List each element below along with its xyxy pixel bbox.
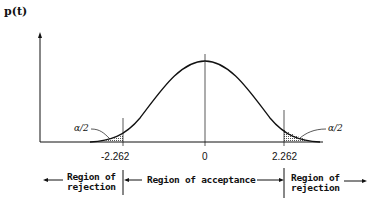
acceptance-label: Region of acceptance (147, 175, 255, 185)
y-axis-label: p(t) (4, 5, 27, 18)
acceptance-left-arrow-icon (124, 178, 129, 182)
left-alpha-label: α/2 (74, 123, 89, 133)
right-rejection-line2: rejection (291, 183, 340, 193)
left-rejection-line2: rejection (67, 182, 116, 192)
right-rejection-label: Region of rejection (291, 173, 340, 193)
tick-left-critical: -2.262 (101, 151, 129, 162)
right-alpha-label: α/2 (328, 123, 343, 133)
right-alpha-leader (300, 129, 326, 138)
acceptance-right-arrow-icon (279, 178, 284, 182)
left-alpha-leader (91, 129, 110, 139)
tick-center: 0 (202, 151, 208, 162)
tick-right-critical: 2.262 (272, 151, 297, 162)
y-axis-arrow-icon (38, 32, 42, 38)
left-arrow-icon (43, 178, 48, 182)
right-arrow-icon (362, 179, 367, 183)
left-rejection-label: Region of rejection (67, 172, 116, 192)
